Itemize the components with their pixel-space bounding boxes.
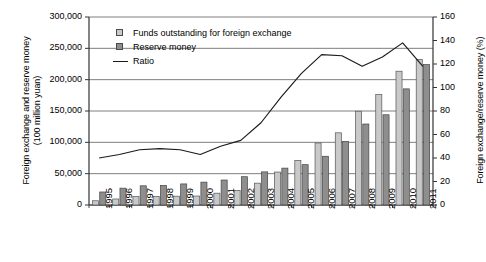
plot-area bbox=[0, 0, 486, 262]
legend-label: Reserve money bbox=[133, 42, 196, 52]
bar-reserve-money bbox=[423, 65, 429, 205]
legend-swatch-funds-outstanding bbox=[116, 29, 123, 36]
chart-container: Foreign exchange and reserve money (100 … bbox=[0, 0, 486, 262]
y-tick-label-right: 140 bbox=[440, 35, 455, 45]
y-tick-label-left: 150,000 bbox=[0, 105, 82, 115]
x-tick-label-1998: 1998 bbox=[164, 188, 175, 209]
legend-label: Funds outstanding for foreign exchange bbox=[133, 28, 292, 38]
x-tick-label-2006: 2006 bbox=[326, 188, 337, 209]
bar-funds-outstanding bbox=[416, 59, 422, 205]
y-tick-label-left: 300,000 bbox=[0, 11, 82, 21]
y-tick-label-left: 50,000 bbox=[0, 168, 82, 178]
y-tick-label-right: 20 bbox=[440, 176, 450, 186]
x-tick-label-2007: 2007 bbox=[346, 188, 357, 209]
y-tick-label-right: 120 bbox=[440, 58, 455, 68]
x-tick-label-2000: 2000 bbox=[204, 188, 215, 209]
bar-funds-outstanding bbox=[92, 201, 98, 205]
x-tick-label-1997: 1997 bbox=[144, 188, 155, 209]
y-axis-right-title: Foreign exchange/reserve money (%) bbox=[475, 15, 486, 205]
bar-funds-outstanding bbox=[396, 71, 402, 205]
x-tick-label-2009: 2009 bbox=[386, 188, 397, 209]
y-tick-label-right: 40 bbox=[440, 152, 450, 162]
y-tick-label-left: 250,000 bbox=[0, 42, 82, 52]
x-tick-label-2010: 2010 bbox=[407, 188, 418, 209]
legend-swatch-reserve-money bbox=[116, 43, 123, 50]
x-tick-label-2001: 2001 bbox=[225, 188, 236, 209]
x-tick-label-1995: 1995 bbox=[103, 188, 114, 209]
x-tick-label-2004: 2004 bbox=[285, 188, 296, 209]
x-tick-label-2003: 2003 bbox=[265, 188, 276, 209]
y-tick-label-left: 100,000 bbox=[0, 136, 82, 146]
y-tick-label-right: 160 bbox=[440, 11, 455, 21]
x-tick-label-1999: 1999 bbox=[184, 188, 195, 209]
y-tick-label-left: 0 bbox=[0, 199, 82, 209]
x-tick-label-2002: 2002 bbox=[245, 188, 256, 209]
legend-label: Ratio bbox=[133, 56, 154, 66]
legend-marker-ratio-line bbox=[113, 61, 128, 62]
x-tick-label-2008: 2008 bbox=[366, 188, 377, 209]
y-tick-label-right: 100 bbox=[440, 82, 455, 92]
x-tick-label-2005: 2005 bbox=[305, 188, 316, 209]
x-tick-label-1996: 1996 bbox=[123, 188, 134, 209]
bar-group bbox=[396, 71, 409, 205]
y-tick-label-right: 60 bbox=[440, 129, 450, 139]
x-tick-label-2011: 2011 bbox=[427, 189, 438, 209]
y-tick-label-right: 0 bbox=[440, 199, 445, 209]
y-tick-label-left: 200,000 bbox=[0, 74, 82, 84]
y-tick-label-right: 80 bbox=[440, 105, 450, 115]
bar-group bbox=[416, 59, 429, 205]
